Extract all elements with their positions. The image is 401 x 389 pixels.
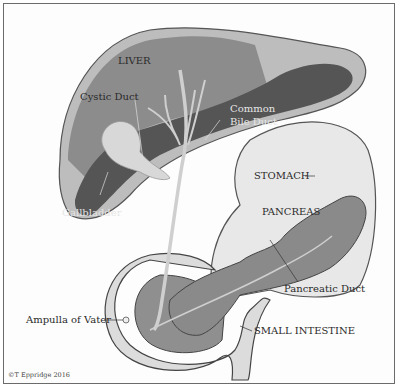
label-ampulla-of-vater: Ampulla of Vater [25,314,111,325]
label-small-intestine: SMALL INTESTINE [254,325,355,336]
label-stomach: STOMACH [254,170,310,181]
label-pancreas: PANCREAS [262,206,320,217]
label-common-bile-duct-1: Common [230,103,276,114]
label-cystic-duct: Cystic Duct [80,91,139,102]
ampulla-marker [123,317,129,323]
label-liver: LIVER [118,55,151,66]
anatomy-illustration: LIVER Cystic Duct Common Bile Duct Gallb… [0,0,401,389]
label-common-bile-duct-2: Bile Duct [230,116,277,127]
label-pancreatic-duct: Pancreatic Duct [284,283,365,294]
copyright-credit: ©T Eppridge 2016 [8,371,70,379]
label-gallbladder: Gallbladder [62,207,122,218]
